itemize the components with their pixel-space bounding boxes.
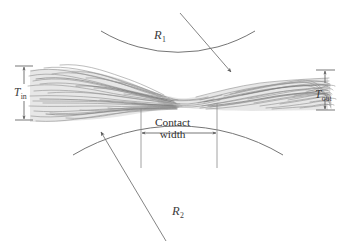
thickness-in-label: Tin: [14, 86, 26, 98]
thickness-in-symbol: T: [14, 86, 20, 98]
thickness-out-subscript: out: [322, 94, 332, 103]
radius-upper-symbol: R: [154, 28, 162, 42]
radius-upper-subscript: 1: [162, 35, 166, 44]
radius-upper-label: R1: [154, 29, 166, 42]
thickness-out-symbol: T: [315, 88, 321, 100]
r1-leader-arrow: [180, 13, 231, 72]
fiber-bundle: [28, 65, 336, 122]
thickness-in-subscript: in: [21, 92, 27, 101]
thickness-out-label: Tout: [315, 88, 331, 100]
fiber-bundle-nip-contact-diagram: R1 R2 Tin Tout Contact width: [0, 0, 351, 252]
contact-width-label: Contact width: [155, 117, 190, 141]
contact-width-label-line2: width: [155, 129, 190, 141]
radius-lower-label: R2: [172, 205, 184, 218]
radius-lower-subscript: 2: [180, 211, 184, 220]
radius-lower-symbol: R: [172, 204, 180, 218]
r2-leader-arrow: [101, 132, 166, 241]
upper-roll-arc: [101, 31, 255, 52]
